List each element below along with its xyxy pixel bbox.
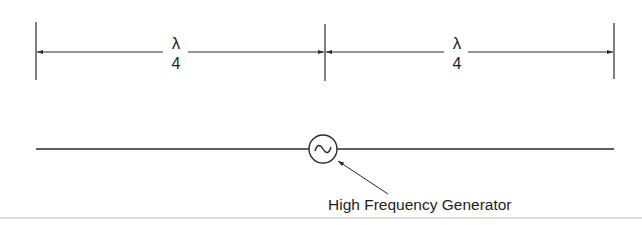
right-denominator: 4 bbox=[453, 55, 462, 72]
antenna-diagram: λ 4 λ 4 High Frequency Generator bbox=[0, 0, 642, 225]
generator-symbol bbox=[309, 135, 337, 163]
left-denominator: 4 bbox=[172, 55, 181, 72]
right-dimension-label: λ 4 bbox=[453, 34, 462, 72]
callout-label: High Frequency Generator bbox=[328, 196, 512, 213]
left-numerator: λ bbox=[172, 34, 181, 53]
callout-arrow bbox=[338, 161, 388, 194]
left-dimension-label: λ 4 bbox=[172, 34, 181, 72]
right-numerator: λ bbox=[453, 34, 462, 53]
